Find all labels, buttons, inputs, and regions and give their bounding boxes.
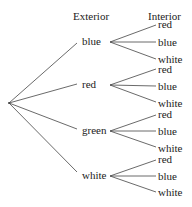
exterior-white: white (82, 169, 106, 181)
exterior-blue: blue (82, 35, 101, 47)
header-exterior: Exterior (73, 10, 109, 22)
exterior-green: green (82, 124, 106, 136)
interior-white-blue: blue (158, 170, 177, 182)
interior-white-red: red (158, 153, 172, 165)
interior-red-red: red (158, 63, 172, 75)
interior-green-blue: blue (158, 125, 177, 137)
interior-green-red: red (158, 108, 172, 120)
interior-red-blue: blue (158, 80, 177, 92)
interior-blue-red: red (158, 18, 172, 30)
interior-white-white: white (158, 186, 182, 198)
exterior-red: red (82, 78, 96, 90)
interior-blue-blue: blue (158, 36, 177, 48)
root-node (8, 102, 10, 104)
